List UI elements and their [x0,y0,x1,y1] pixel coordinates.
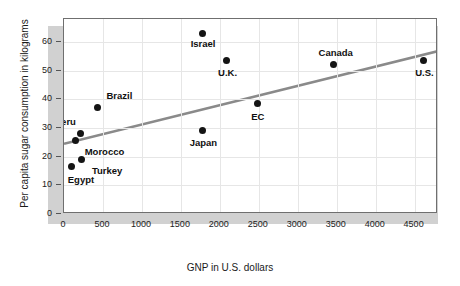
x-tick-label: 4000 [355,219,395,229]
gridline-horizontal [64,71,436,72]
data-point-label: EC [251,112,264,122]
y-tick-mark [56,213,61,214]
gridline-vertical [376,19,377,212]
y-tick-label: 30 [30,122,52,132]
data-point-label: U.S. [415,68,433,78]
data-point-label: Egypt [68,175,94,185]
x-tick-label: 4500 [394,219,434,229]
gridline-vertical [181,19,182,212]
gridline-vertical [298,19,299,212]
y-tick-mark [56,98,61,99]
y-tick-mark [56,127,61,128]
x-tick-label: 0 [43,219,83,229]
data-point-label: Peru [63,117,76,127]
y-tick-label: 50 [30,65,52,75]
data-point [254,100,261,107]
data-point-label: U.K. [218,68,237,78]
x-tick-label: 3000 [277,219,317,229]
data-point [420,57,427,64]
x-tick-label: 1000 [121,219,161,229]
gridline-vertical [220,19,221,212]
data-point [199,30,206,37]
gridline-horizontal [64,128,436,129]
data-point-label: Morocco [85,147,125,157]
x-tick-label: 3500 [316,219,356,229]
data-point-label: Japan [190,138,217,148]
y-axis-title: Per capita sugar consumption in kilogram… [19,4,30,224]
gridline-vertical [415,19,416,212]
x-tick-label: 2500 [238,219,278,229]
y-tick-mark [56,41,61,42]
data-point-label: Brazil [107,91,133,101]
scatter-chart: EgyptMoroccoTurkeyPeruBrazilIsraelU.K.Ja… [0,0,460,286]
plot-area: EgyptMoroccoTurkeyPeruBrazilIsraelU.K.Ja… [63,18,437,213]
data-point-label: Turkey [92,166,122,176]
y-tick-mark [56,156,61,157]
data-point [223,57,230,64]
y-tick-label: 40 [30,93,52,103]
x-tick-label: 500 [82,219,122,229]
gridline-horizontal [64,42,436,43]
x-axis-title: GNP in U.S. dollars [0,262,460,273]
y-tick-label: 0 [30,208,52,218]
gridline-horizontal [64,185,436,186]
y-tick-label: 60 [30,36,52,46]
data-point-label: Canada [319,48,353,58]
gridline-vertical [103,19,104,212]
y-tick-mark [56,70,61,71]
x-tick-label: 1500 [160,219,200,229]
y-tick-label: 20 [30,151,52,161]
y-tick-mark [56,184,61,185]
y-tick-label: 10 [30,179,52,189]
data-point-label: Israel [191,39,216,49]
gridline-vertical [142,19,143,212]
x-tick-label: 2000 [199,219,239,229]
